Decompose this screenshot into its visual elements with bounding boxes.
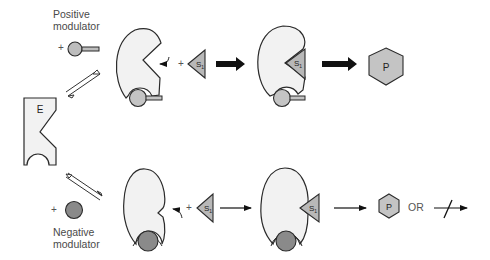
enzyme-e-shape: E: [24, 98, 56, 165]
or-label: OR: [408, 201, 424, 213]
thick-arrow-2: [322, 57, 357, 71]
product-p-lower: P: [379, 194, 399, 218]
plus-substrate-lower: +: [186, 202, 192, 213]
enzyme-substrate-complex-negative: S1: [261, 168, 319, 251]
product-label-upper: P: [383, 62, 390, 73]
thick-arrow-1: [216, 57, 245, 71]
product-label-lower: P: [386, 202, 392, 212]
substrate-s1-lower: S1: [197, 194, 213, 222]
inactive-enzyme-negative: [124, 169, 182, 251]
plus-substrate-upper: +: [178, 58, 184, 69]
substrate-s1-upper: S1: [188, 50, 205, 78]
plus-negative-modulator: +: [51, 204, 57, 215]
enzyme-label: E: [37, 104, 44, 115]
enzyme-substrate-complex-positive: S1: [258, 26, 305, 107]
negative-modulator-free: [66, 202, 83, 219]
positive-modulator-label: Positive modulator: [53, 8, 100, 32]
equilibrium-arrows-lower: [66, 173, 102, 200]
allosteric-modulation-diagram: E S1: [0, 0, 490, 260]
blocked-reaction-arrow: [434, 200, 467, 218]
active-enzyme-positive: [116, 29, 169, 107]
equilibrium-arrows-upper: [66, 70, 100, 98]
diagram-canvas: E S1: [0, 0, 490, 260]
plus-positive-modulator: +: [58, 42, 64, 53]
positive-modulator-free: [68, 42, 99, 56]
negative-modulator-label: Negative modulator: [53, 226, 100, 250]
product-p-upper: P: [369, 48, 403, 85]
